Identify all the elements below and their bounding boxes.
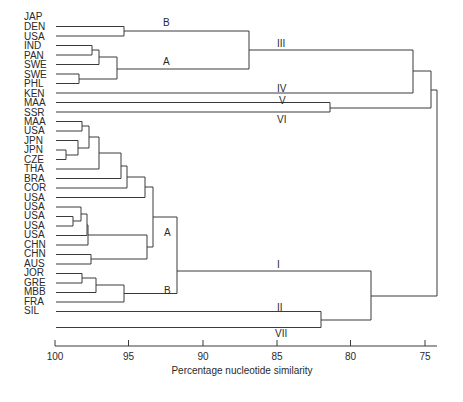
clade-labels: B A III IV V VI A B I II VII — [163, 17, 287, 339]
branch-i-a-node — [145, 187, 153, 247]
x-axis-ticks — [55, 340, 425, 346]
branch-iii-a-node — [79, 57, 117, 79]
tick-label-90: 90 — [197, 351, 209, 362]
clade-label-iii-b: B — [163, 17, 170, 28]
tick-label-100: 100 — [47, 351, 64, 362]
clade-label-iv: IV — [277, 83, 287, 94]
branch-i — [177, 217, 371, 294]
tick-label-75: 75 — [419, 351, 431, 362]
branch-fra — [56, 285, 124, 302]
clade-label-iii: III — [277, 38, 285, 49]
branch-jor-gre — [56, 274, 82, 284]
branch-jap-den — [56, 27, 124, 37]
branch-jpn-jpn — [56, 150, 66, 160]
clade-label-vii: VII — [275, 328, 287, 339]
clade-label-i: I — [277, 259, 280, 270]
branch-usa-jpn — [56, 141, 78, 156]
branch-asia-node — [78, 126, 89, 148]
clade-label-i-a: A — [164, 227, 171, 238]
branch-usa-chn-node — [88, 235, 147, 259]
x-axis-title: Percentage nucleotide similarity — [171, 365, 312, 376]
branch-upper-node — [330, 71, 437, 108]
tick-label-80: 80 — [345, 351, 357, 362]
dendrogram-figure: JAP DEN USA IND PAN SWE SWE PHL KEN MAA … — [0, 0, 463, 402]
branch-chn-aus — [56, 255, 91, 265]
branch-cor — [56, 177, 145, 198]
clade-label-i-b: B — [164, 285, 171, 296]
branch-v-vi — [56, 103, 330, 113]
tick-label-95: 95 — [123, 351, 135, 362]
tick-label-85: 85 — [271, 351, 283, 362]
clade-label-iii-a: A — [163, 56, 170, 67]
branch-usa-usa-b — [56, 207, 81, 221]
tree-branches — [56, 27, 437, 328]
clade-label-v: V — [279, 95, 286, 106]
branch-pan — [56, 50, 99, 65]
branch-ii-vii — [56, 312, 321, 328]
clade-label-vi: VI — [277, 114, 286, 125]
branch-swe-swe — [56, 74, 79, 84]
x-axis: 100 95 90 85 80 75 Percentage nucleotide… — [47, 340, 437, 376]
leaf-label: SIL — [24, 305, 39, 316]
branch-mbb — [56, 278, 96, 293]
branch-ssr-maa — [56, 122, 82, 132]
branch-lower-node — [321, 271, 371, 320]
branch-usa-usa-a — [56, 217, 73, 227]
branch-usa-cluster — [56, 214, 87, 236]
branch-iii — [249, 31, 413, 69]
branch-usa-ind — [56, 46, 92, 56]
branch-iii-iv-node — [413, 50, 431, 93]
clade-label-ii: II — [277, 302, 283, 313]
leaf-labels: JAP DEN USA IND PAN SWE SWE PHL KEN MAA … — [24, 11, 47, 316]
